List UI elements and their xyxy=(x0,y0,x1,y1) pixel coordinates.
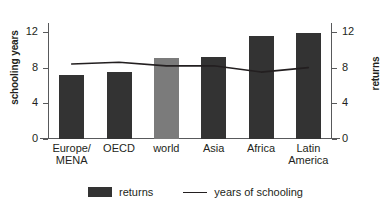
plot-area xyxy=(48,23,332,139)
y-axis-right-tick-label: 12 xyxy=(342,25,362,37)
y-axis-right-tick-mark xyxy=(332,139,337,140)
schooling-line-path xyxy=(72,62,309,72)
chart-legend: returns years of schooling xyxy=(0,186,391,198)
y-axis-left-tick-label: 12 xyxy=(18,25,38,37)
legend-line-swatch-icon xyxy=(183,192,207,193)
x-axis-label-1: Europe/ MENA xyxy=(48,142,95,166)
y-axis-right-tick-label: 0 xyxy=(342,132,362,144)
x-axis-label-3: world xyxy=(143,142,190,154)
legend-item-years-of-schooling: years of schooling xyxy=(183,186,303,198)
y-axis-right-title: returns xyxy=(370,44,381,104)
x-axis-label-6: Latin America xyxy=(285,142,332,166)
y-axis-right-tick-label: 8 xyxy=(342,61,362,73)
legend-bar-swatch-icon xyxy=(88,187,112,197)
line-series-years-of-schooling xyxy=(48,23,332,139)
y-axis-left-tick-mark xyxy=(43,139,48,140)
x-axis-label-2: OECD xyxy=(95,142,142,154)
y-axis-right-tick-mark xyxy=(332,103,337,104)
y-axis-left-tick-label: 4 xyxy=(18,96,38,108)
y-axis-right-tick-mark xyxy=(332,68,337,69)
legend-item-returns: returns xyxy=(88,186,153,198)
legend-label-years-of-schooling: years of schooling xyxy=(214,186,303,198)
chart-figure: schooling years returns 04812 04812 Euro… xyxy=(0,0,391,217)
y-axis-right-tick-mark xyxy=(332,32,337,33)
y-axis-left-tick-label: 8 xyxy=(18,61,38,73)
legend-label-returns: returns xyxy=(119,186,153,198)
x-axis-label-4: Asia xyxy=(190,142,237,154)
y-axis-left-tick-label: 0 xyxy=(18,132,38,144)
y-axis-right-tick-label: 4 xyxy=(342,96,362,108)
x-axis-label-5: Africa xyxy=(237,142,284,154)
